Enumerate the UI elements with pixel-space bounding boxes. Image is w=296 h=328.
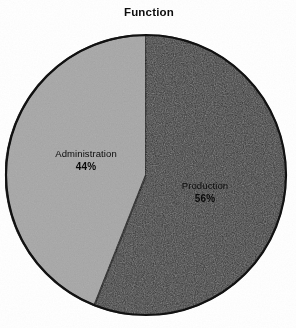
slice-label-administration-name: Administration xyxy=(55,148,117,159)
slice-label-production-percent: 56% xyxy=(155,193,255,206)
pie-chart: Function xyxy=(0,0,296,328)
slice-label-production: Production 56% xyxy=(155,180,255,205)
slice-label-administration-percent: 44% xyxy=(26,161,146,174)
slice-label-administration: Administration 44% xyxy=(26,148,146,173)
slice-label-production-name: Production xyxy=(182,180,228,191)
